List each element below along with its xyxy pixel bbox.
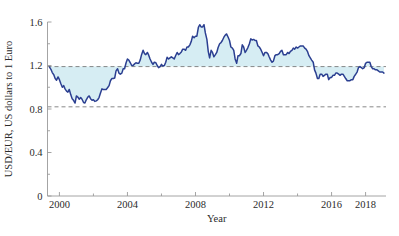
y-tick-label: 0: [37, 191, 42, 202]
exchange-rate-chart-figure: 200020042008201220162018 00.40.81.21.6 Y…: [0, 0, 399, 236]
x-tick-label: 2008: [185, 199, 206, 210]
y-tick-label: 0.8: [29, 104, 42, 115]
x-tick-label: 2000: [49, 199, 70, 210]
x-tick-label: 2016: [321, 199, 342, 210]
x-tick-labels: 200020042008201220162018: [49, 199, 376, 210]
y-axis-title: USD/EUR, US dollars to 1 Euro: [3, 41, 14, 178]
series-fill-band: [50, 25, 384, 103]
x-tick-label: 2004: [117, 199, 139, 210]
axes: [48, 22, 387, 196]
y-tick-labels: 00.40.81.21.6: [29, 17, 43, 202]
x-tick-label: 2012: [253, 199, 274, 210]
y-tick-label: 1.6: [29, 17, 42, 28]
chart-plot-area: 200020042008201220162018 00.40.81.21.6 Y…: [0, 0, 399, 236]
y-tick-label: 1.2: [29, 60, 42, 71]
x-axis-title: Year: [207, 213, 227, 224]
y-tick-label: 0.4: [29, 147, 43, 158]
x-tick-label: 2018: [355, 199, 376, 210]
